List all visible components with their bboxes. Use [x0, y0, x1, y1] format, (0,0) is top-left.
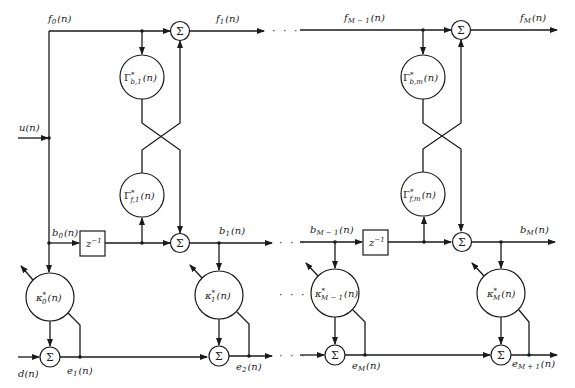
d-label: d(n)	[18, 368, 39, 379]
sum-symbol: Σ	[46, 351, 54, 364]
sum-symbol: Σ	[176, 25, 184, 38]
sum-symbol: Σ	[176, 237, 184, 250]
sum-symbol: Σ	[458, 236, 466, 249]
e1-label: e1(n)	[67, 365, 93, 378]
ellipsis-regression: · · ·	[279, 288, 306, 301]
f0-label: f0(n)	[47, 13, 72, 26]
lattice-diagram: · · · · · · · · · · · · Σ Σ Σ Σ Σ Σ Σ Σ …	[0, 0, 575, 388]
f1-label: f1(n)	[215, 13, 240, 26]
bM-label: bM(n)	[520, 224, 549, 237]
kappaM1-adapt-arrow	[306, 263, 318, 276]
eM1-label: eM + 1(n)	[512, 358, 555, 371]
fM1-label: fM − 1(n)	[343, 12, 385, 25]
e2-label: e2(n)	[236, 361, 262, 374]
ellipsis-forward: · · ·	[272, 24, 299, 37]
e2-feedback-line	[237, 312, 249, 356]
sum-symbol: Σ	[331, 349, 339, 362]
eM-label: eM(n)	[352, 360, 380, 373]
sum-symbol: Σ	[497, 349, 505, 362]
eM1-feedback-line	[519, 310, 529, 355]
bM1-label: bM − 1(n)	[310, 224, 354, 237]
e1-feedback-line	[68, 313, 80, 357]
sum-symbol: Σ	[457, 24, 465, 37]
ellipsis-error: · · ·	[279, 349, 306, 362]
b0-label: b0(n)	[52, 227, 78, 240]
fM-label: fM(n)	[519, 12, 546, 25]
sum-symbol: Σ	[215, 350, 223, 363]
ellipsis-backward: · · ·	[279, 236, 306, 249]
kappaM-adapt-arrow	[472, 263, 484, 276]
kappa1-adapt-arrow	[190, 265, 202, 278]
b1-label: b1(n)	[219, 225, 245, 238]
kappa0-adapt-arrow	[21, 266, 33, 280]
eM-feedback-line	[353, 310, 365, 355]
u-junction	[47, 136, 51, 140]
u-label: u(n)	[19, 122, 40, 133]
